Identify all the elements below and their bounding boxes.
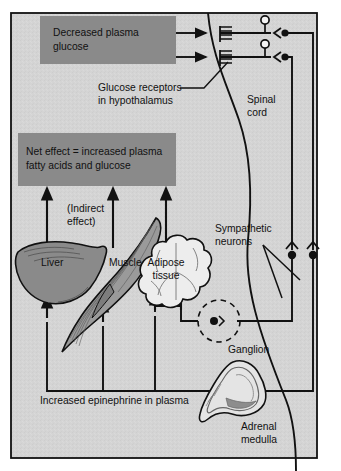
net-effect-line-2: fatty acids and glucose [26,160,131,171]
net-effect-line-1: Net effect = increased plasma [26,146,163,157]
sympathetic-label-2: neurons [215,236,252,247]
glucose-receptors-label-1: Glucose receptors [98,82,182,93]
stimulus-line-1: Decreased plasma [53,27,139,38]
ganglion-cell-body [210,317,218,325]
stimulus-box [40,16,176,64]
sympathetic-label-1: Sympathetic [215,223,272,234]
adrenal-label-1: Adrenal [241,421,277,432]
ganglion-label: Ganglion [228,344,269,355]
glucose-receptors-label-2: in hypothalamus [98,95,173,106]
adipose-label-1: Adipose [147,257,184,268]
indirect-effect-label-1: (Indirect [67,203,104,214]
liver-label: Liver [41,257,64,268]
spinal-cord-label-2: cord [247,107,267,118]
indirect-effect-label-2: effect) [67,216,95,227]
spinal-cord-label-1: Spinal [247,94,276,105]
adrenal-label-2: medulla [241,434,277,445]
physiology-diagram: Decreased plasma glucose Net effect = in… [0,0,341,471]
figure-canvas: Decreased plasma glucose Net effect = in… [0,0,341,471]
muscle-label: Muscle [109,257,142,268]
epinephrine-label: Increased epinephrine in plasma [40,395,189,406]
adipose-label-2: tissue [153,270,180,281]
stimulus-line-2: glucose [53,41,89,52]
